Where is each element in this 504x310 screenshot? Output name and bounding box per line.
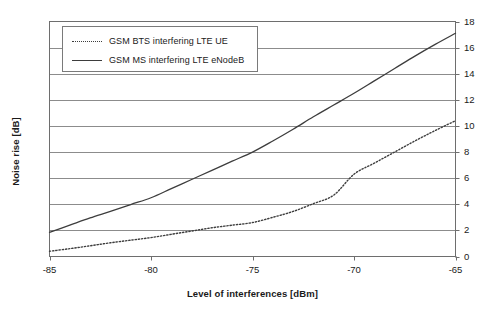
x-tick-label: -65 bbox=[436, 264, 476, 275]
legend: GSM BTS interfering LTE UEGSM MS interfe… bbox=[62, 26, 258, 72]
y-tick-label: 2 bbox=[464, 225, 490, 235]
legend-label: GSM BTS interfering LTE UE bbox=[109, 36, 228, 46]
y-tick-label: 4 bbox=[464, 199, 490, 209]
noise-rise-chart: 024681012141618 -85-80-75-70-65 Noise ri… bbox=[0, 0, 504, 310]
grid-lines bbox=[50, 49, 456, 231]
y-tick-label: 10 bbox=[464, 121, 490, 131]
x-axis-title: Level of interferences [dBm] bbox=[49, 288, 456, 299]
legend-entry-2: GSM MS interfering LTE eNodeB bbox=[63, 50, 257, 69]
x-tick-label: -80 bbox=[131, 264, 171, 275]
y-tick-label: 12 bbox=[464, 95, 490, 105]
y-tick-label: 6 bbox=[464, 173, 490, 183]
series-line-1 bbox=[50, 121, 456, 252]
legend-swatch-dotted-icon bbox=[72, 36, 102, 46]
legend-swatch-solid-icon bbox=[72, 55, 102, 65]
y-axis-title: Noise rise [dB] bbox=[6, 96, 24, 206]
y-axis-title-text: Noise rise [dB] bbox=[10, 117, 21, 186]
x-tick-label: -75 bbox=[233, 264, 273, 275]
y-tick-label: 14 bbox=[464, 69, 490, 79]
legend-entry-1: GSM BTS interfering LTE UE bbox=[63, 31, 257, 50]
y-tick-label: 0 bbox=[464, 252, 490, 262]
y-tick-label: 8 bbox=[464, 147, 490, 157]
x-tick-label: -70 bbox=[334, 264, 374, 275]
y-tick-label: 16 bbox=[464, 43, 490, 53]
x-tick-label: -85 bbox=[30, 264, 70, 275]
legend-label: GSM MS interfering LTE eNodeB bbox=[109, 55, 244, 65]
y-tick-label: 18 bbox=[464, 17, 490, 27]
